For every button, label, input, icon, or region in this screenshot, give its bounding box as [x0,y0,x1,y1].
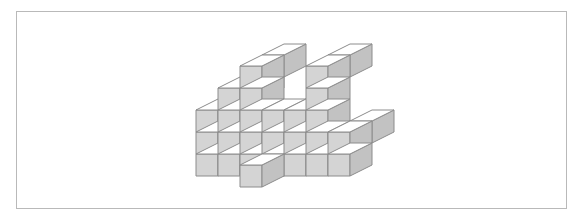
cube-left-face [284,154,306,176]
cube-left-face [240,165,262,187]
cube-group [196,44,394,187]
cube-left-face [328,154,350,176]
cube-left-face [196,154,218,176]
cube-left-face [218,154,240,176]
cube-stack-svg [0,0,578,220]
figure-root [0,0,578,220]
cube-left-face [306,154,328,176]
isometric-cube-stack-figure [0,0,578,220]
